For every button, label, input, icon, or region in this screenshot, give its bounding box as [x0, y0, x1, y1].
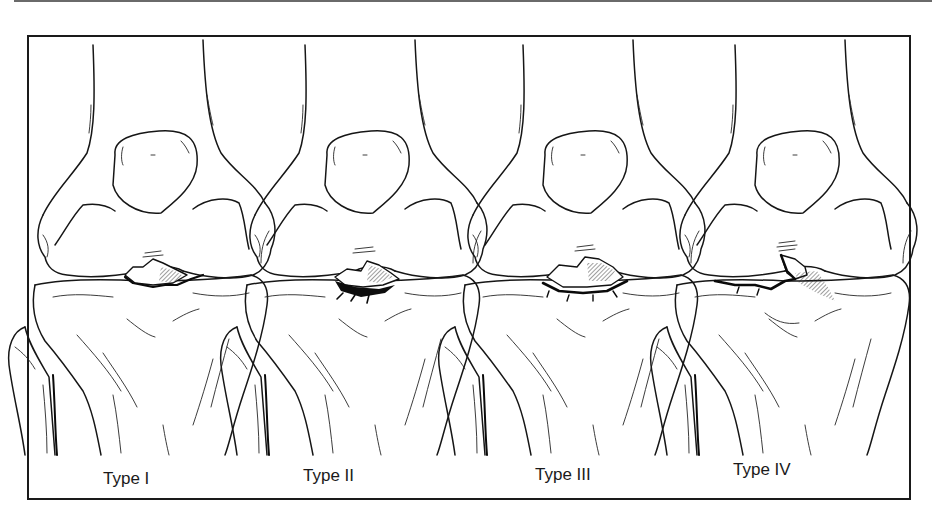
knee-type-2 [221, 40, 487, 455]
label-type-1: Type I [103, 469, 149, 489]
knee-fracture-illustration [0, 0, 932, 517]
label-type-3: Type III [535, 465, 591, 485]
label-type-2: Type II [303, 466, 354, 486]
label-type-4: Type IV [733, 460, 791, 480]
knee-type-3 [439, 40, 705, 455]
knee-type-4 [651, 40, 917, 455]
knee-type-1 [9, 40, 275, 455]
